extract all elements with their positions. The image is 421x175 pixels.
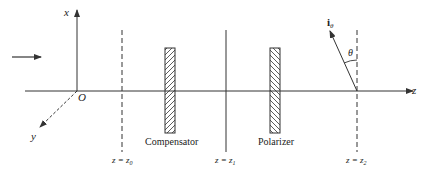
compensator-label: Compensator [145,136,199,147]
theta-angle-label: θ [348,47,353,58]
i-theta-label: iθ [327,16,334,30]
i-theta-vector [330,31,357,91]
optical-setup-diagram: z x y O z = z0 Compensator z = z1 Polari… [0,0,421,175]
origin-label: O [78,91,86,103]
plane-z0-label: z = z0 [111,155,133,166]
y-axis [40,91,77,127]
y-axis-label: y [30,130,36,142]
polarizer-label: Polarizer [258,136,295,147]
theta-angle-arc [344,60,357,63]
z-axis-label: z [411,84,417,96]
polarizer-plate [270,48,280,133]
plane-z2-label: z = z2 [345,155,367,166]
compensator-plate [165,48,175,133]
plane-z1-label: z = z1 [214,155,236,166]
x-axis-label: x [63,6,69,18]
